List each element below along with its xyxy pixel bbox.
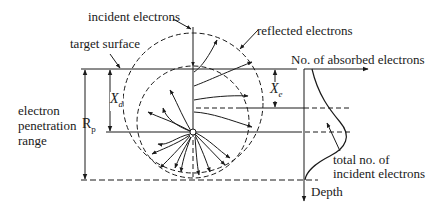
xe-sub: e: [279, 89, 283, 99]
scatter-origin-point: [190, 129, 196, 135]
electron-penetration-diagram: incident electrons reflected electrons t…: [0, 0, 439, 213]
total-leader: [327, 123, 340, 151]
xd-symbol: Xd: [110, 92, 123, 111]
penetration-range-label-line2: penetration: [18, 119, 76, 133]
rp-main: R: [82, 116, 91, 131]
xd-main: X: [110, 91, 119, 106]
depth-axis-label: Depth: [311, 185, 343, 199]
diagram-graphics: [0, 0, 439, 213]
rp-symbol: Rp: [82, 117, 96, 136]
xe-symbol: Xe: [270, 82, 283, 101]
reflected-leader: [240, 30, 258, 49]
absorbed-axis-label: No. of absorbed electrons: [291, 53, 425, 67]
xe-main: X: [270, 81, 279, 96]
total-incident-label-line1: total no. of: [333, 153, 390, 167]
penetration-range-label-line3: range: [18, 134, 47, 148]
target-surface-leader: [110, 54, 120, 68]
total-incident-label-line2: incident electrons: [333, 167, 425, 181]
xd-sub: d: [119, 99, 124, 109]
reflected-electrons-label: reflected electrons: [257, 24, 353, 38]
target-surface-label: target surface: [70, 37, 140, 51]
penetration-range-label-line1: electron: [18, 104, 60, 118]
incident-electrons-label: incident electrons: [88, 10, 180, 24]
rp-sub: p: [91, 124, 96, 134]
